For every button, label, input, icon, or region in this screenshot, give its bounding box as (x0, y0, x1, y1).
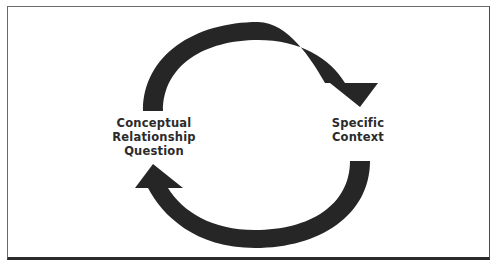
node-label-line: Conceptual (102, 116, 206, 130)
top-arrow-icon (143, 22, 378, 111)
cycle-diagram (0, 0, 497, 271)
node-label-line: Relationship (102, 130, 206, 144)
node-label-line: Question (102, 144, 206, 158)
node-specific-context: Specific Context (318, 116, 398, 144)
node-label-line: Specific (318, 116, 398, 130)
node-conceptual-relationship-question: Conceptual Relationship Question (102, 116, 206, 158)
bottom-arrow-icon (135, 161, 370, 248)
node-label-line: Context (318, 130, 398, 144)
